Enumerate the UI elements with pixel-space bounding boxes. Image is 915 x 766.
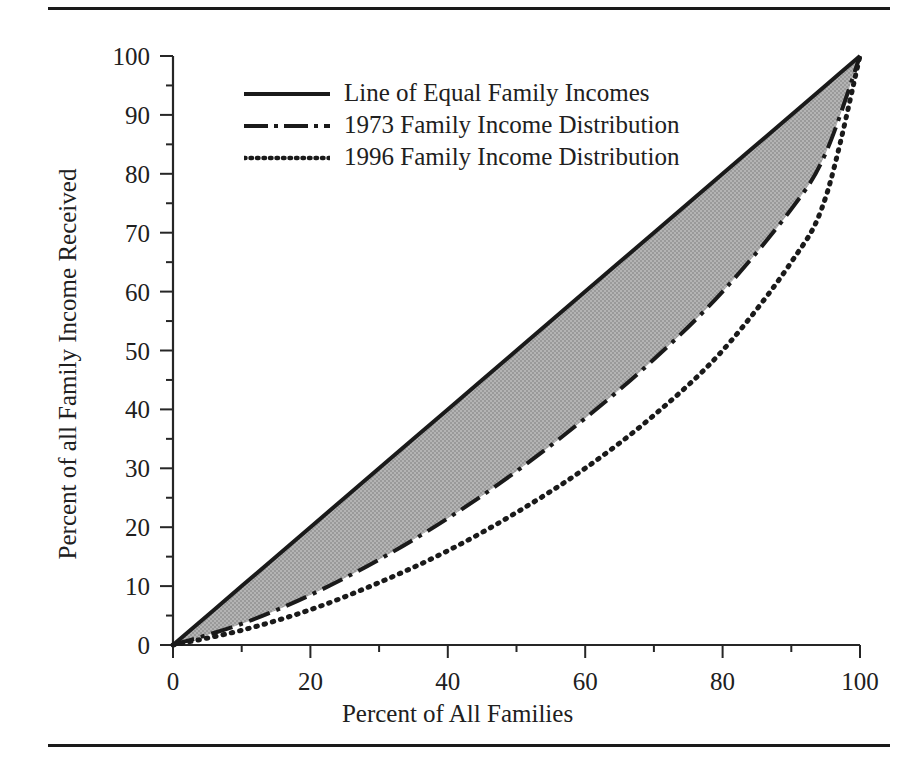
y-tick-label: 80: [80, 162, 150, 187]
y-tick-label: 90: [80, 103, 150, 128]
legend-label: 1973 Family Income Distribution: [344, 112, 679, 137]
y-tick-label: 70: [80, 221, 150, 246]
x-tick-label: 20: [270, 669, 350, 694]
x-tick-label: 60: [545, 669, 625, 694]
chart-legend: Line of Equal Family Incomes1973 Family …: [244, 76, 674, 172]
y-tick-label: 50: [80, 339, 150, 364]
y-tick-label: 20: [80, 515, 150, 540]
y-tick-label: 40: [80, 397, 150, 422]
legend-line-sample: [244, 150, 330, 162]
x-tick-label: 40: [408, 669, 488, 694]
x-axis-title: Percent of All Families: [0, 700, 915, 728]
x-tick-label: 100: [820, 669, 900, 694]
x-tick-label: 80: [683, 669, 763, 694]
y-axis-title: Percent of all Family Income Received: [54, 114, 82, 614]
legend-line-sample: [244, 86, 330, 98]
legend-line-sample: [244, 118, 330, 130]
y-tick-label: 10: [80, 574, 150, 599]
x-tick-label: 0: [133, 669, 213, 694]
legend-label: Line of Equal Family Incomes: [344, 80, 649, 105]
y-tick-label: 60: [80, 280, 150, 305]
legend-item: 1973 Family Income Distribution: [244, 108, 674, 140]
legend-label: 1996 Family Income Distribution: [344, 144, 679, 169]
y-tick-label: 0: [80, 633, 150, 658]
y-tick-label: 30: [80, 456, 150, 481]
legend-item: 1996 Family Income Distribution: [244, 140, 674, 172]
lorenz-curve-figure: 0102030405060708090100 020406080100 Perc…: [0, 0, 915, 766]
y-tick-label: 100: [80, 44, 150, 69]
legend-item: Line of Equal Family Incomes: [244, 76, 674, 108]
